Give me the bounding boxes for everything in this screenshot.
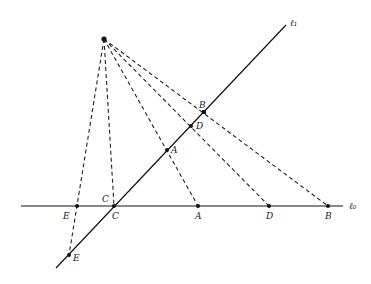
label-E-base: E	[62, 211, 70, 221]
center-point	[101, 36, 106, 41]
point-B-l0	[326, 204, 330, 208]
point-D-l0	[267, 204, 271, 208]
point-E-l0	[75, 204, 79, 208]
point-B-l1	[202, 110, 206, 114]
point-C	[112, 204, 116, 208]
projection-diagram: ℓ₁ ℓ₀ B D A C E E C A D B	[0, 0, 371, 284]
label-A-top: A	[170, 145, 178, 155]
label-B-base: B	[324, 211, 332, 221]
diagram-svg: ℓ₁ ℓ₀ B D A C E E C A D B	[0, 0, 371, 284]
ray-to-C	[104, 39, 114, 206]
point-A-l0	[196, 204, 200, 208]
point-D-l1	[189, 124, 193, 128]
label-l0: ℓ₀	[349, 201, 357, 211]
ray-to-D	[104, 39, 269, 206]
label-B-top: B	[198, 100, 206, 110]
label-E-bottom: E	[72, 253, 80, 263]
label-A-base: A	[194, 211, 202, 221]
point-E-l1	[67, 253, 71, 257]
point-A-l1	[165, 148, 169, 152]
label-D-top: D	[195, 121, 203, 131]
label-C-base: C	[112, 211, 119, 221]
label-l1: ℓ₁	[290, 18, 297, 28]
ray-to-A	[104, 39, 198, 206]
label-C-top: C	[102, 194, 109, 204]
label-D-base: D	[265, 211, 273, 221]
